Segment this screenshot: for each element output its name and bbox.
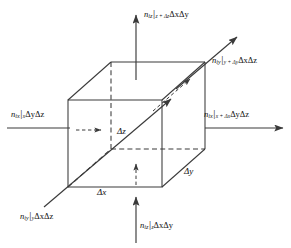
label-delta-z: Δz <box>117 127 126 136</box>
label-flux-bottom-in: niz|zΔxΔy <box>140 220 173 231</box>
label-flux-top-out: niz|z + ΔzΔxΔy <box>144 9 189 20</box>
label-flux-front-in: niy|yΔxΔz <box>20 211 53 222</box>
arrow-flux-front-in <box>44 99 171 207</box>
label-delta-x: Δx <box>97 188 106 197</box>
figure-canvas: niz|z + ΔzΔxΔy niz|zΔxΔy nix|xΔyΔz nix|x… <box>0 0 291 248</box>
label-delta-y: Δy <box>184 167 193 176</box>
interior-arrow-back <box>153 79 190 111</box>
label-flux-back-out: niy|y + ΔyΔxΔz <box>212 55 257 66</box>
label-flux-left-in: nix|xΔyΔz <box>11 109 44 120</box>
label-flux-right-out: nix|x + ΔxΔyΔz <box>204 109 249 120</box>
